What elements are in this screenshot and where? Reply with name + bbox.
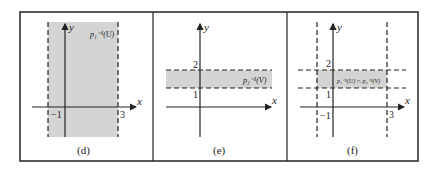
tick-x-3: 3 <box>120 109 125 120</box>
tick-x-3: 3 <box>389 109 394 120</box>
tick-y-2: 2 <box>193 59 198 70</box>
figure-canvas: y x −1 3 p₁⁻¹(U) (d) y x 2 1 p₂⁻¹(V) (e)… <box>0 0 431 172</box>
y-axis-label: y <box>203 21 209 33</box>
panel-caption: (f) <box>347 144 358 157</box>
panel-caption: (d) <box>77 144 90 157</box>
panel-f: y x 2 1 −1 3 p₁⁻¹(U) ∩ p₂⁻¹(V) (f) <box>298 21 410 157</box>
panel-caption: (e) <box>213 144 226 157</box>
region-label: p₁⁻¹(U) ∩ p₂⁻¹(V) <box>336 78 380 85</box>
region-label: p₂⁻¹(V) <box>242 76 267 85</box>
tick-y-2: 2 <box>326 58 331 69</box>
panel-e: y x 2 1 p₂⁻¹(V) (e) <box>166 21 277 157</box>
y-axis-label: y <box>68 21 74 33</box>
tick-x-minus1: −1 <box>51 109 62 120</box>
tick-x-minus1: −1 <box>320 110 331 121</box>
y-axis-label: y <box>336 21 342 33</box>
panel-d: y x −1 3 p₁⁻¹(U) (d) <box>32 21 142 157</box>
tick-y-1: 1 <box>193 89 198 100</box>
x-axis-label: x <box>271 94 277 106</box>
region-label: p₁⁻¹(U) <box>89 30 115 39</box>
x-axis-label: x <box>136 95 142 107</box>
x-axis-label: x <box>404 94 410 106</box>
tick-y-1: 1 <box>326 89 331 100</box>
